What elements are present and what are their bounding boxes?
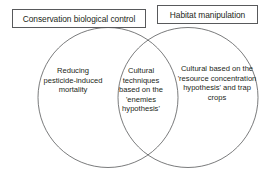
venn-region-intersection: Cultural techniques based on the 'enemie… — [114, 66, 168, 114]
label-text-left: Conservation biological control — [23, 14, 136, 24]
label-text-right: Habitat manipulation — [170, 10, 245, 20]
venn-region-right-only: Cultural based on the 'resource concentr… — [176, 64, 258, 102]
label-box-habitat-manipulation: Habitat manipulation — [157, 5, 258, 24]
label-box-conservation-biological-control: Conservation biological control — [12, 9, 146, 28]
venn-region-left-only: Reducing pesticide-induced mortality — [42, 66, 104, 95]
venn-diagram: Conservation biological control Habitat … — [0, 0, 272, 174]
